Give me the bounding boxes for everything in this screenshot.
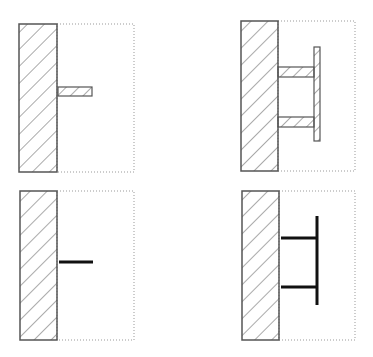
diagram-canvas — [0, 0, 373, 357]
hatched-bar — [58, 87, 92, 96]
hatched-wall — [241, 21, 278, 171]
hatched-wall — [242, 191, 279, 340]
panel-top-left — [19, 24, 134, 172]
hatched-wall — [20, 191, 57, 340]
dotted-boundary — [57, 24, 134, 172]
hatched-bar — [278, 67, 314, 77]
panel-bottom-left — [20, 191, 134, 340]
panel-top-right — [241, 21, 355, 171]
hatched-bar — [278, 117, 314, 127]
panel-bottom-right — [242, 191, 355, 340]
dotted-boundary — [57, 191, 134, 340]
hatched-plate — [314, 47, 320, 141]
hatched-wall — [19, 24, 57, 172]
